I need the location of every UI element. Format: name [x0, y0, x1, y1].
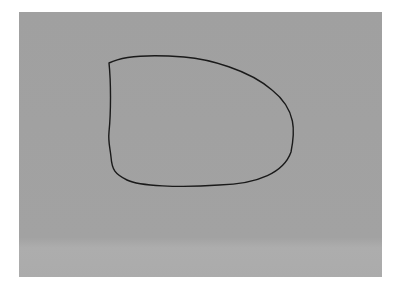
gray-paper-sheet	[19, 12, 382, 277]
hand-drawn-oval	[19, 12, 382, 277]
